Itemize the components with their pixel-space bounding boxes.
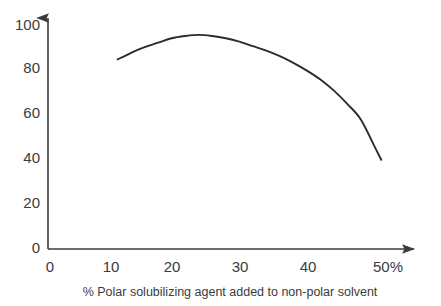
y-tick-label-40: 40 — [23, 149, 40, 166]
x-axis-title: % Polar solubilizing agent added to non-… — [83, 285, 378, 299]
x-tick-label-20: 20 — [164, 258, 181, 275]
y-tick-label-20: 20 — [23, 194, 40, 211]
y-tick-label-80: 80 — [23, 59, 40, 76]
y-tick-label-100: 100 — [15, 16, 40, 33]
data-curve-solubility — [118, 35, 382, 160]
x-tick-label-10: 10 — [103, 258, 120, 275]
x-tick-label-0: 0 — [46, 258, 54, 275]
chart-page: 0 20 40 60 80 100 0 10 20 30 40 50% % Po… — [0, 0, 441, 306]
line-chart: 0 20 40 60 80 100 0 10 20 30 40 50% % Po… — [0, 0, 441, 306]
x-tick-label-30: 30 — [232, 258, 249, 275]
x-tick-label-40: 40 — [300, 258, 317, 275]
y-tick-label-60: 60 — [23, 104, 40, 121]
y-tick-label-0: 0 — [32, 239, 40, 256]
x-tick-label-50: 50% — [373, 258, 403, 275]
